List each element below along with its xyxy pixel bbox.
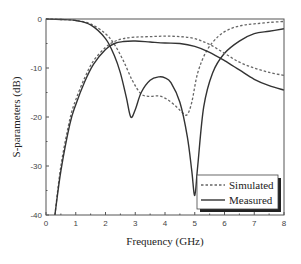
y-axis-title: S-parameters (dB) (10, 76, 23, 157)
x-tick-label: 0 (44, 219, 49, 228)
x-axis-title: Frequency (GHz) (126, 235, 204, 248)
simulated-s11-curve (46, 19, 284, 115)
x-tick-label: 3 (133, 219, 138, 228)
y-tick-label: -30 (30, 162, 42, 171)
measured-s11-curve (46, 19, 284, 195)
y-tick-label: -20 (30, 113, 42, 122)
legend: Simulated Measured (197, 175, 281, 212)
y-tick-label: -10 (30, 64, 42, 73)
x-tick-label: 2 (103, 219, 108, 228)
legend-measured-label: Measured (229, 194, 273, 206)
s-parameters-chart: 0123456780-10-20-30-40 Simulated Measure… (0, 0, 301, 264)
y-tick-label: 0 (38, 15, 43, 24)
x-tick-label: 5 (193, 219, 198, 228)
x-tick-label: 1 (74, 219, 79, 228)
legend-simulated-label: Simulated (229, 179, 274, 191)
y-tick-label: -40 (30, 211, 42, 220)
x-tick-label: 8 (282, 219, 287, 228)
x-tick-label: 4 (163, 219, 168, 228)
x-tick-label: 6 (222, 219, 227, 228)
x-tick-label: 7 (252, 219, 257, 228)
